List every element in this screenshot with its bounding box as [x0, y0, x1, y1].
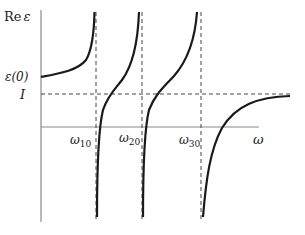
y-axis-label: Reε	[4, 9, 30, 24]
chart-canvas: Reε ε(0) I ω10 ω20 ω30 ω	[0, 0, 305, 235]
omega-axis-label: ω	[253, 132, 264, 147]
w20-label: ω20	[119, 131, 141, 147]
curve-branch-1	[41, 12, 95, 77]
curve-branch-4	[203, 96, 290, 217]
eps0-label: ε(0)	[5, 70, 29, 84]
dispersion-diagram: Reε ε(0) I ω10 ω20 ω30 ω	[0, 0, 305, 235]
w10-label: ω10	[70, 133, 92, 149]
curve-branch-3	[143, 12, 197, 217]
w30-label: ω30	[179, 133, 201, 149]
curve-branch-2	[97, 12, 139, 217]
I-label: I	[19, 87, 26, 102]
